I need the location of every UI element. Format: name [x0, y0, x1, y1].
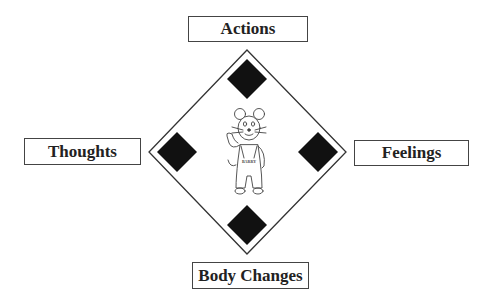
overalls-name-text: BARRY [242, 159, 256, 164]
label-feelings: Feelings [354, 140, 469, 166]
label-actions: Actions [188, 16, 308, 42]
label-body-changes: Body Changes [192, 262, 309, 289]
label-thoughts: Thoughts [24, 138, 141, 165]
